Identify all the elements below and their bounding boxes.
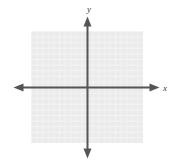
x-axis-label: x	[162, 83, 167, 93]
coordinate-plane-svg: x y	[0, 0, 173, 168]
coordinate-plane-figure: x y	[0, 0, 173, 168]
y-axis-label: y	[86, 4, 91, 14]
